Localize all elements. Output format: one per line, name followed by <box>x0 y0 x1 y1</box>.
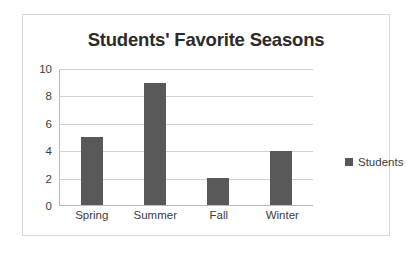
legend-label: Students <box>358 156 403 168</box>
bar-slot-winter <box>250 69 313 205</box>
plot-area: 10 8 6 4 2 0 <box>59 69 313 206</box>
bar-spring[interactable] <box>81 137 103 205</box>
x-axis-labels: Spring Summer Fall Winter <box>60 209 314 221</box>
y-tick-label-2: 2 <box>46 173 52 185</box>
bar-fall[interactable] <box>207 178 229 205</box>
y-tick-label-10: 10 <box>39 63 52 75</box>
x-label-winter: Winter <box>251 209 315 221</box>
bar-slot-fall <box>187 69 250 205</box>
bars-layer <box>60 69 313 205</box>
y-tick-label-0: 0 <box>46 200 52 212</box>
x-axis-line <box>59 205 313 206</box>
y-tick-label-6: 6 <box>46 118 52 130</box>
chart-frame: Students' Favorite Seasons 10 8 6 4 2 0 <box>22 14 390 236</box>
bar-summer[interactable] <box>144 83 166 205</box>
y-tick-label-8: 8 <box>46 90 52 102</box>
legend: Students <box>345 156 403 168</box>
bar-slot-summer <box>123 69 186 205</box>
x-label-summer: Summer <box>124 209 188 221</box>
legend-swatch-icon <box>345 158 353 166</box>
y-tick-label-4: 4 <box>46 145 52 157</box>
x-label-fall: Fall <box>187 209 251 221</box>
chart-title: Students' Favorite Seasons <box>23 29 389 51</box>
x-label-spring: Spring <box>60 209 124 221</box>
bar-winter[interactable] <box>270 151 292 205</box>
bar-slot-spring <box>60 69 123 205</box>
